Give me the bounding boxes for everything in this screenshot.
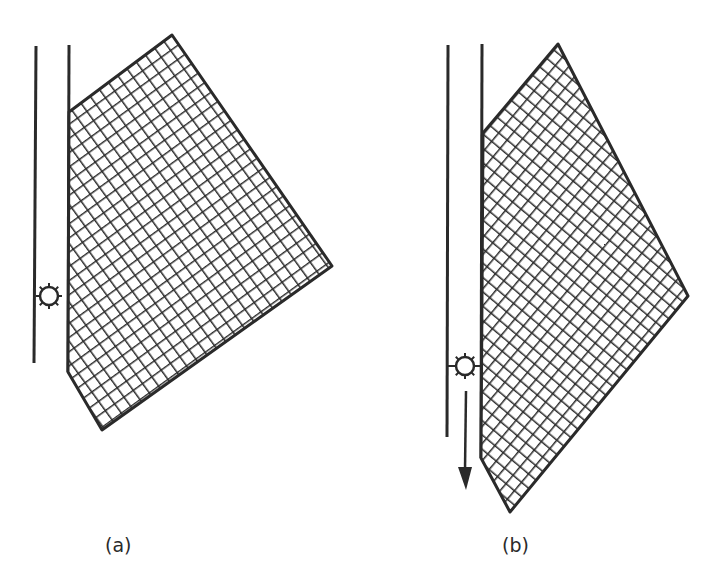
panel-b xyxy=(447,44,688,512)
down-arrow-icon xyxy=(458,391,472,490)
rail-left-a xyxy=(34,46,36,363)
figure-canvas xyxy=(0,0,717,576)
panel-label-b: (b) xyxy=(502,534,529,556)
grid-plate-a xyxy=(68,35,332,430)
gear-icon xyxy=(36,283,62,309)
rail-left-b xyxy=(447,45,448,437)
grid-plate-b xyxy=(481,44,688,512)
panel-a xyxy=(34,35,332,430)
panel-label-a: (a) xyxy=(105,534,131,556)
gear-icon xyxy=(448,353,482,379)
